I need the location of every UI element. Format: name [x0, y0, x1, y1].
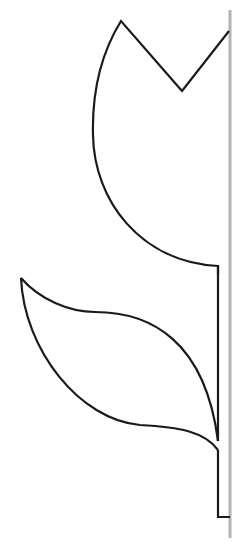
tulip-template-diagram — [0, 0, 250, 553]
leaf-outline — [21, 278, 218, 450]
flower-head-outline — [93, 21, 229, 275]
stem-lower — [218, 450, 230, 517]
